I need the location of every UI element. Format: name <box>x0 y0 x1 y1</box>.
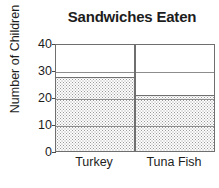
y-axis-title: Number of Children <box>8 0 22 119</box>
bar-chart-figure: Sandwiches Eaten Number of Children 40 3… <box>0 0 219 188</box>
y-tick-label-10: 10 <box>26 119 52 131</box>
y-tick-label-30: 30 <box>26 65 52 77</box>
y-tick-label-40: 40 <box>26 38 52 50</box>
category-divider <box>134 45 136 151</box>
chart-title: Sandwiches Eaten <box>47 8 217 25</box>
plot-area <box>55 44 215 152</box>
y-tick-mark-0 <box>52 152 56 153</box>
x-axis-tick-labels: Turkey Tuna Fish <box>55 155 215 175</box>
bar-tuna-fish <box>134 95 215 151</box>
bar-turkey <box>56 77 134 151</box>
y-tick-label-0: 0 <box>26 146 52 158</box>
y-tick-label-20: 20 <box>26 92 52 104</box>
y-axis-tick-labels: 40 30 20 10 0 <box>26 44 52 152</box>
x-tick-label-turkey: Turkey <box>55 155 133 169</box>
x-tick-label-tuna-fish: Tuna Fish <box>133 155 215 169</box>
